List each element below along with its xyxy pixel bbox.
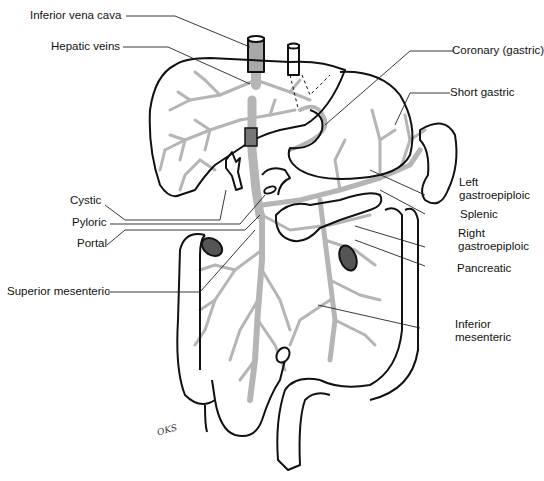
label-right-gastroepiploic: Right gastroepiploic	[458, 227, 529, 253]
label-coronary-gastric: Coronary (gastric)	[452, 44, 544, 57]
label-short-gastric: Short gastric	[450, 86, 515, 99]
label-pyloric: Pyloric	[72, 216, 107, 229]
label-left-gastroepiploic-line2: gastroepiploic	[459, 189, 530, 202]
label-right-gastroepiploic-line1: Right	[458, 227, 529, 240]
label-right-gastroepiploic-line2: gastroepiploic	[458, 240, 529, 253]
label-splenic: Splenic	[460, 208, 498, 221]
label-left-gastroepiploic: Left gastroepiploic	[459, 176, 530, 202]
label-inferior-mesenteric-line2: mesenteric	[455, 331, 511, 344]
label-pancreatic: Pancreatic	[457, 262, 511, 275]
label-hepatic-veins: Hepatic veins	[51, 40, 120, 53]
label-left-gastroepiploic-line1: Left	[459, 176, 530, 189]
label-inferior-mesenteric: Inferior mesenteric	[455, 318, 511, 344]
label-portal: Portal	[77, 237, 107, 250]
organs	[150, 36, 457, 470]
label-inferior-mesenteric-line1: Inferior	[455, 318, 511, 331]
label-cystic: Cystic	[70, 194, 101, 207]
label-superior-mesenteric: Superior mesenteric	[7, 285, 110, 298]
label-inferior-vena-cava: Inferior vena cava	[30, 9, 121, 22]
